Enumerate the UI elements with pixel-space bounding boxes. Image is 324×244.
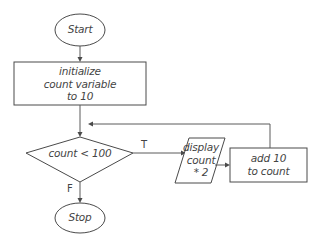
- flowchart-canvas: [0, 0, 324, 244]
- true-branch-label: T: [141, 139, 147, 150]
- display-label-line-3: * 2: [178, 166, 224, 179]
- arrowhead-icon: [78, 198, 83, 203]
- init-label-line-1: initialize: [14, 65, 146, 78]
- arrowhead-icon: [78, 57, 83, 62]
- decision-node: [26, 137, 133, 182]
- arrowhead-icon: [78, 132, 83, 137]
- display-label-line-2: count: [178, 154, 224, 167]
- init-label-line-3: to 10: [14, 90, 146, 103]
- stop-label: Stop: [55, 211, 105, 224]
- init-label-line-2: count variable: [14, 78, 146, 91]
- display-label: display count * 2: [178, 141, 224, 179]
- start-label: Start: [55, 23, 105, 36]
- display-label-line-1: display: [178, 141, 224, 154]
- decision-label: count < 100: [30, 147, 130, 160]
- add-label-line-2: to count: [230, 165, 307, 178]
- arrowhead-icon: [88, 122, 93, 127]
- init-label: initialize count variable to 10: [14, 65, 146, 103]
- false-branch-label: F: [67, 183, 73, 194]
- add-label-line-1: add 10: [230, 152, 307, 165]
- add-label: add 10 to count: [230, 152, 307, 177]
